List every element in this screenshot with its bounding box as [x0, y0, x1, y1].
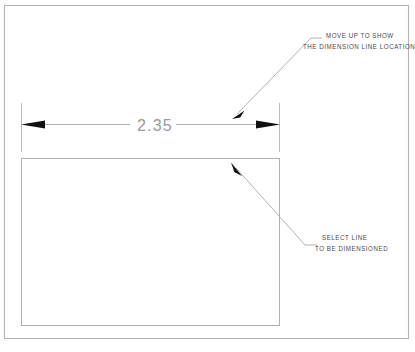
- drawing-canvas: 2.35 MOVE UP TO SHOW THE DIMENSION LINE …: [0, 0, 415, 352]
- move-up-note-line-2: THE DIMENSION LINE LOCATION: [303, 42, 415, 50]
- leader-line-top: [237, 38, 311, 114]
- drawing-border: [5, 6, 409, 339]
- leader-arrow-top-icon: [232, 111, 245, 120]
- move-up-note-line-1: MOVE UP TO SHOW: [326, 32, 394, 40]
- rectangle-object[interactable]: [22, 159, 280, 326]
- dimension-value: 2.35: [137, 117, 173, 134]
- leader-arrow-bottom-icon: [231, 163, 242, 177]
- select-line-note-line-2: TO BE DIMENSIONED: [315, 244, 388, 252]
- arrow-right-icon: [256, 120, 280, 128]
- select-line-note-line-1: SELECT LINE: [322, 234, 367, 242]
- arrow-left-icon: [21, 120, 45, 128]
- leader-line-bottom: [236, 168, 305, 245]
